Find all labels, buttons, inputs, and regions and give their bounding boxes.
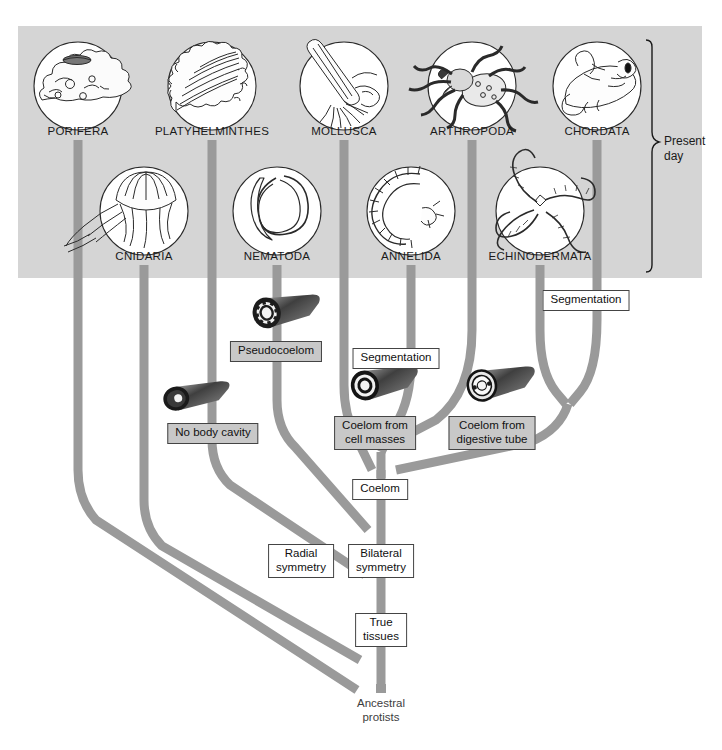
- phylum-label-porifera: PORIFERA: [47, 125, 108, 137]
- root-stem-foot: [376, 684, 386, 693]
- branch-cnidaria: [144, 265, 360, 660]
- trait-box-segmentation-protostome: Segmentation: [353, 348, 440, 369]
- phylogenetic-tree-figure: PORIFERA PLATYHELMINTHES MOLLUSCA ARTHRO…: [0, 0, 722, 750]
- trait-line-1: Coelom from: [459, 419, 525, 431]
- trait-box-coelom-digestive-tube: Coelom from digestive tube: [449, 416, 536, 450]
- era-line-2: day: [664, 149, 683, 163]
- trait-line-1: Bilateral: [360, 547, 402, 559]
- circle-echinodermata: [496, 167, 584, 255]
- phylum-label-mollusca: MOLLUSCA: [311, 125, 377, 137]
- era-line-1: Present: [664, 134, 705, 148]
- trait-line-2: symmetry: [356, 561, 406, 573]
- trait-line-1: True: [369, 616, 392, 628]
- trait-box-radial-symmetry: Radial symmetry: [268, 544, 334, 578]
- trait-line-2: digestive tube: [457, 433, 528, 445]
- trait-line-1: Radial: [285, 547, 318, 559]
- phylum-label-nematoda: NEMATODA: [244, 250, 311, 262]
- present-day-label: Present day: [664, 134, 705, 164]
- trait-line-2: symmetry: [276, 561, 326, 573]
- pseudocoelom-tube-icon: [249, 285, 323, 332]
- phylum-label-echinodermata: ECHINODERMATA: [488, 250, 591, 262]
- phylum-label-platyhelminthes: PLATYHELMINTHES: [155, 125, 269, 137]
- coelom-digestive-tube-icon: [464, 357, 538, 404]
- trait-box-no-body-cavity: No body cavity: [167, 423, 258, 444]
- phylum-label-annelida: ANNELIDA: [381, 250, 441, 262]
- trait-box-pseudocoelom: Pseudocoelom: [230, 341, 322, 362]
- trait-line-1: Coelom from: [342, 419, 408, 431]
- trait-box-coelom: Coelom: [352, 479, 408, 500]
- no-body-cavity-tube-icon: [161, 375, 233, 414]
- branch-echinodermata: [540, 265, 566, 404]
- sponge-osculum: [63, 56, 91, 65]
- root-label-ancestral-protists: Ancestral protists: [357, 697, 405, 724]
- trait-line-2: cell masses: [345, 433, 405, 445]
- root-line-1: Ancestral: [357, 697, 405, 709]
- phylum-label-chordata: CHORDATA: [564, 125, 629, 137]
- trait-box-bilateral-symmetry: Bilateral symmetry: [348, 544, 414, 578]
- phylum-label-cnidaria: CNIDARIA: [115, 250, 172, 262]
- trait-box-true-tissues: True tissues: [355, 613, 407, 647]
- trait-box-coelom-cell-masses: Coelom from cell masses: [334, 416, 416, 450]
- trait-box-segmentation-deuterostome: Segmentation: [543, 290, 630, 311]
- trait-line-2: tissues: [363, 630, 399, 642]
- root-line-2: protists: [362, 711, 399, 723]
- phylum-label-arthropoda: ARTHROPODA: [430, 125, 514, 137]
